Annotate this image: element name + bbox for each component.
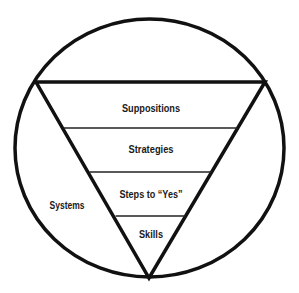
layer-label-steps-to-yes: Steps to “Yes” <box>120 189 183 200</box>
layer-label-strategies: Strategies <box>129 144 174 155</box>
systems-funnel-diagram: Suppositions Strategies Steps to “Yes” S… <box>0 0 299 293</box>
outer-label-systems: Systems <box>50 200 85 211</box>
layer-label-skills: Skills <box>139 229 163 240</box>
layer-label-suppositions: Suppositions <box>122 103 180 114</box>
